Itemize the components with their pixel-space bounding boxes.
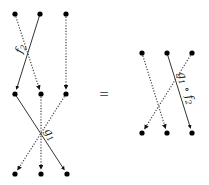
- braid-composition-diagram: f2 g1 = g1 ∘ f2: [0, 0, 209, 185]
- node-dot: [189, 130, 194, 135]
- node-dot: [38, 171, 43, 176]
- node-dot: [12, 91, 17, 96]
- node-dot: [37, 11, 42, 16]
- label-g1: g1: [41, 126, 59, 144]
- node-dot: [189, 50, 194, 55]
- solid-strand: [15, 94, 64, 170]
- node-dot: [63, 11, 68, 16]
- node-dot: [139, 50, 144, 55]
- node-dot: [64, 171, 69, 176]
- label-f2: f2: [12, 42, 28, 56]
- node-dot: [12, 11, 17, 16]
- node-dot: [38, 91, 43, 96]
- dotted-strand: [142, 53, 166, 128]
- node-dot: [139, 130, 144, 135]
- node-dot: [12, 171, 17, 176]
- node-dot: [164, 130, 169, 135]
- equals-sign: =: [99, 87, 109, 101]
- node-dot: [164, 50, 169, 55]
- node-dot: [63, 91, 68, 96]
